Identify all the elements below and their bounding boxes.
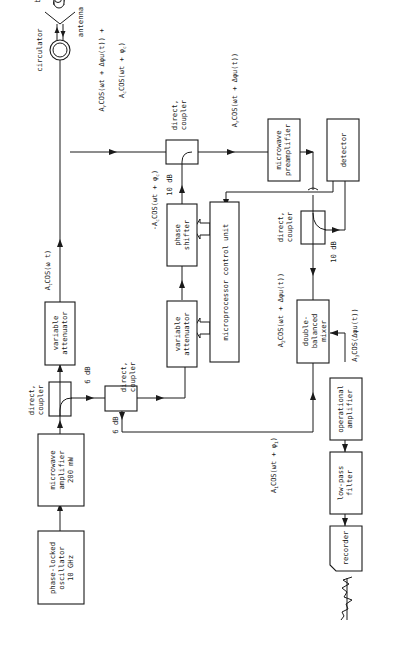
mcu-label: microprocessor control unit [221, 224, 230, 341]
antenna-label: antenna [76, 7, 85, 37]
microprocessor-control-unit: microprocessor control unit [210, 202, 239, 362]
svg-text:-AcCOS(ωt + φc): -AcCOS(ωt + φc) [151, 170, 160, 230]
detector-label: detector [339, 132, 348, 167]
arrow-up-icon [57, 239, 63, 247]
coupler3-label-1: direct, [170, 100, 179, 130]
coupler3-label-2: coupler [179, 99, 188, 130]
preamplifier-label-1: microwave [274, 131, 283, 170]
coupler2-label-2: coupler [128, 361, 137, 392]
svg-text:A3COS(Δφu(t)): A3COS(Δφu(t)) [351, 308, 360, 361]
arrow-left-icon [330, 330, 338, 336]
arrow-right-icon [109, 149, 117, 155]
lpf-label-2: filter [345, 469, 354, 496]
arrow-right-icon [332, 227, 340, 233]
signal-reflected-clutter: ArCOS(ωt + Δφu(t)) + AcCOS(ωt + φc) [98, 29, 127, 112]
detector-block: detector [327, 119, 359, 181]
amplifier-block: microwave amplifier 200 mW [38, 434, 84, 506]
coupler2-label-1: direct, [119, 362, 128, 392]
coupler1-tap-label: 6 dB [83, 366, 92, 383]
wire-mixer-lo [112, 362, 313, 432]
coupler4-tap-label: 10 dB [329, 241, 338, 263]
phase-shifter-block: phase shifter [167, 204, 197, 266]
preamplifier-label-2: preamplifier [283, 123, 292, 176]
phase-shifter-label-1: phase [173, 224, 182, 246]
coupler3-tap-label: 10 dB [165, 174, 174, 196]
arrow-down-icon [310, 268, 316, 276]
signal-mixer-out: A3COS(Δφu(t)) [351, 308, 360, 361]
svg-text:AcCOS(ωt + φc): AcCOS(ωt + φc) [118, 42, 127, 98]
svg-text:ArCOS(ωt + Δφu(t)) +: ArCOS(ωt + Δφu(t)) + [98, 29, 107, 112]
arrow-up-icon [57, 420, 63, 428]
attenuator2-label-2: attenuator [182, 312, 191, 356]
coupler2-tap-label: 6 dB [111, 416, 120, 433]
low-pass-filter-block: low-pass filter [330, 452, 362, 514]
wire-detector-mcu [226, 180, 333, 202]
attenuator1-label-2: attenuator [60, 311, 69, 355]
phase-shifter-label-2: shifter [182, 219, 191, 250]
circulator: circulator [35, 28, 70, 72]
coupler1-label-1: direct, [27, 385, 36, 415]
arrow-down-icon [342, 518, 348, 526]
recorder-label: recorder [341, 530, 350, 565]
coupler2-block: direct, coupler 6 dB [105, 361, 137, 433]
signal-transmit: AtCOS(ω t) [44, 250, 53, 291]
op-amp-label-2: amplifier [345, 389, 354, 429]
op-amp-label-1: operational [336, 385, 345, 433]
mixer-label-2: balanced [310, 314, 319, 349]
oscillator-block: phase-locked oscillator 10 GHz [38, 531, 84, 604]
waveform-trace-icon [341, 577, 352, 620]
svg-text:A1COS(ωt + φ1): A1COS(ωt + φ1) [270, 437, 279, 493]
body-label: body [33, 0, 42, 3]
arrow-up-icon [310, 392, 316, 400]
arrow-right-icon [86, 395, 94, 401]
block-diagram: phase-locked oscillator 10 GHz microwave… [0, 0, 394, 658]
oscillator-label-2: oscillator [57, 546, 66, 590]
arrow-up-icon [179, 185, 185, 193]
preamplifier-block: microwave preamplifier [268, 119, 300, 181]
coupler1-label-2: coupler [36, 384, 45, 415]
arrow-up-icon [55, 27, 60, 33]
arrow-down-icon [342, 444, 348, 452]
coupler4-block: direct, coupler 10 dB [276, 211, 338, 263]
amplifier-label-3: 200 mW [66, 456, 75, 483]
recorder-block: recorder [330, 526, 362, 571]
coupler4-label-1: direct, [276, 212, 285, 242]
amplifier-label-1: microwave [48, 451, 57, 490]
mixer-label-3: mixer [319, 320, 328, 342]
op-amp-block: operational amplifier [330, 378, 362, 440]
signal-mixer-lo: A1COS(ωt + φ1) [270, 437, 279, 493]
mixer-label-1: double- [301, 316, 310, 346]
attenuator2-label-1: variable [173, 317, 182, 352]
coupler4-label-2: coupler [285, 211, 294, 242]
attenuator1-block: variable attenuator [45, 302, 75, 365]
signal-cancel: -AcCOS(ωt + φc) [151, 170, 160, 230]
arrow-right-icon [227, 149, 235, 155]
arrow-right-icon [156, 395, 164, 401]
signal-after-cancel: ArCOS(ωt + Δφu(t)) [231, 53, 240, 127]
circulator-label: circulator [35, 28, 44, 72]
attenuator2-block: variable attenuator [167, 301, 197, 367]
body-icon: body [33, 0, 64, 8]
mixer-block: double- balanced mixer [297, 300, 329, 363]
svg-text:AtCOS(ω t): AtCOS(ω t) [44, 250, 53, 291]
oscillator-label-1: phase-locked [48, 542, 57, 594]
lpf-label-1: low-pass [336, 466, 345, 501]
arrow-up-icon [179, 280, 185, 288]
svg-text:ArCOS(ωt + Δφu(t)): ArCOS(ωt + Δφu(t)) [231, 53, 240, 127]
signal-mixer-rf: A2COS(ωt + Δφu(t)) [277, 273, 286, 347]
wire-mixer-opamp [330, 333, 345, 362]
amplifier-label-2: amplifier [57, 450, 66, 490]
arrow-down-icon [61, 31, 66, 37]
svg-text:A2COS(ωt + Δφu(t)): A2COS(ωt + Δφu(t)) [277, 273, 286, 347]
oscillator-label-3: 10 GHz [66, 555, 75, 581]
attenuator1-label-1: variable [51, 316, 60, 351]
